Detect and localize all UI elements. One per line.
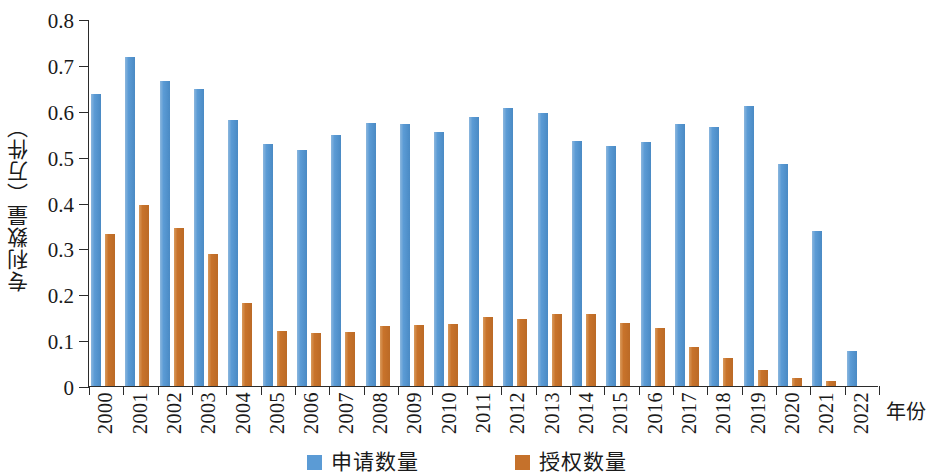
y-axis-tick-label: 0.7 bbox=[48, 56, 74, 77]
bar-group bbox=[604, 20, 638, 386]
bar-group bbox=[536, 20, 570, 386]
bar-grant bbox=[242, 303, 252, 386]
bar-group bbox=[742, 20, 776, 386]
legend-item-apply[interactable]: 申请数量 bbox=[307, 452, 419, 473]
bar-group bbox=[364, 20, 398, 386]
y-axis-tick-label: 0.1 bbox=[48, 332, 74, 353]
bar-apply bbox=[125, 57, 135, 386]
bar-grant bbox=[620, 323, 630, 386]
x-axis-tick-labels: 2000200120022003200420052006200720082009… bbox=[88, 392, 878, 452]
x-axis-tick-label-text: 2021 bbox=[816, 392, 836, 434]
x-axis-tick-label-text: 2015 bbox=[610, 392, 630, 434]
x-axis-tick-label-text: 2008 bbox=[370, 392, 390, 434]
x-axis-tick-label-text: 2010 bbox=[439, 392, 459, 434]
bar-group bbox=[398, 20, 432, 386]
y-axis-tick: 0 bbox=[79, 387, 89, 388]
legend-item-grant[interactable]: 授权数量 bbox=[515, 452, 627, 473]
bar-apply bbox=[331, 135, 341, 386]
bar-group bbox=[845, 20, 879, 386]
bar-apply bbox=[469, 117, 479, 386]
bar-group bbox=[432, 20, 466, 386]
bar-group bbox=[295, 20, 329, 386]
x-axis-tick-label-text: 2002 bbox=[164, 392, 184, 434]
bar-grant bbox=[311, 333, 321, 386]
bar-grant bbox=[655, 328, 665, 386]
x-axis-tick-label-text: 2003 bbox=[198, 392, 218, 434]
bar-grant bbox=[277, 331, 287, 386]
bar-apply bbox=[606, 146, 616, 386]
y-axis-tick-label: 0.8 bbox=[48, 11, 74, 32]
x-axis-tick-label-text: 2016 bbox=[645, 392, 665, 434]
bar-grant bbox=[552, 314, 562, 386]
bar-apply bbox=[847, 351, 857, 386]
bar-grant bbox=[380, 326, 390, 386]
bar-apply bbox=[538, 113, 548, 386]
bar-apply bbox=[709, 127, 719, 386]
bar-group bbox=[158, 20, 192, 386]
patent-bar-chart: 专利数量（万件） 0.80.70.60.50.40.30.20.10 20002… bbox=[0, 0, 933, 475]
bar-grant bbox=[174, 228, 184, 386]
y-axis-tick: 0.6 bbox=[79, 112, 89, 113]
legend-swatch-icon bbox=[307, 455, 322, 470]
plot-area: 0.80.70.60.50.40.30.20.10 bbox=[88, 20, 878, 387]
y-axis-tick: 0.2 bbox=[79, 295, 89, 296]
bar-group bbox=[501, 20, 535, 386]
bar-apply bbox=[91, 94, 101, 386]
x-axis-tick-label-text: 2011 bbox=[473, 392, 493, 433]
bar-grant bbox=[483, 317, 493, 386]
bar-grant bbox=[586, 314, 596, 386]
bar-apply bbox=[160, 81, 170, 386]
bar-apply bbox=[744, 106, 754, 386]
bar-grant bbox=[792, 378, 802, 386]
bar-group bbox=[707, 20, 741, 386]
bar-group bbox=[329, 20, 363, 386]
bar-grant bbox=[689, 347, 699, 386]
bar-grant bbox=[414, 325, 424, 386]
bar-group bbox=[261, 20, 295, 386]
bar-apply bbox=[572, 141, 582, 386]
x-axis-tick bbox=[879, 386, 880, 395]
x-axis-title: 年份 bbox=[886, 396, 926, 425]
bar-grant bbox=[345, 332, 355, 386]
bar-grant bbox=[139, 205, 149, 386]
bar-grant bbox=[208, 254, 218, 386]
legend-label: 申请数量 bbox=[331, 452, 419, 473]
x-axis-tick-label-text: 2005 bbox=[267, 392, 287, 434]
bar-grant bbox=[826, 381, 836, 387]
y-axis-tick: 0.1 bbox=[79, 341, 89, 342]
bar-group bbox=[123, 20, 157, 386]
bar-apply bbox=[812, 231, 822, 386]
y-axis-tick-label: 0.3 bbox=[48, 240, 74, 261]
x-axis-tick-label-text: 2014 bbox=[576, 392, 596, 434]
y-axis-tick-label: 0 bbox=[64, 378, 75, 399]
bar-apply bbox=[434, 132, 444, 386]
bar-apply bbox=[641, 142, 651, 386]
y-axis-tick: 0.8 bbox=[79, 20, 89, 21]
x-axis-tick-label-text: 2007 bbox=[336, 392, 356, 434]
bar-group bbox=[810, 20, 844, 386]
bar-apply bbox=[400, 124, 410, 386]
x-axis-tick-label-text: 2012 bbox=[507, 392, 527, 434]
bar-group bbox=[192, 20, 226, 386]
legend-label: 授权数量 bbox=[539, 452, 627, 473]
bar-apply bbox=[778, 164, 788, 386]
x-axis-tick-label-text: 2000 bbox=[95, 392, 115, 434]
bar-apply bbox=[366, 123, 376, 386]
bar-group bbox=[89, 20, 123, 386]
y-axis-tick-label: 0.4 bbox=[48, 194, 74, 215]
bar-apply bbox=[297, 150, 307, 386]
chart-legend: 申请数量授权数量 bbox=[0, 452, 933, 473]
bar-group bbox=[226, 20, 260, 386]
bar-apply bbox=[675, 124, 685, 386]
bar-group bbox=[673, 20, 707, 386]
y-axis-title-text: 专利数量（万件） bbox=[4, 116, 34, 292]
x-axis-tick-label-text: 2017 bbox=[679, 392, 699, 434]
bar-apply bbox=[228, 120, 238, 386]
y-axis-tick: 0.4 bbox=[79, 204, 89, 205]
bar-group bbox=[467, 20, 501, 386]
bar-apply bbox=[263, 144, 273, 386]
y-axis-tick: 0.5 bbox=[79, 158, 89, 159]
y-axis-tick-label: 0.5 bbox=[48, 148, 74, 169]
x-axis-tick-label-text: 2004 bbox=[233, 392, 253, 434]
bar-group bbox=[776, 20, 810, 386]
